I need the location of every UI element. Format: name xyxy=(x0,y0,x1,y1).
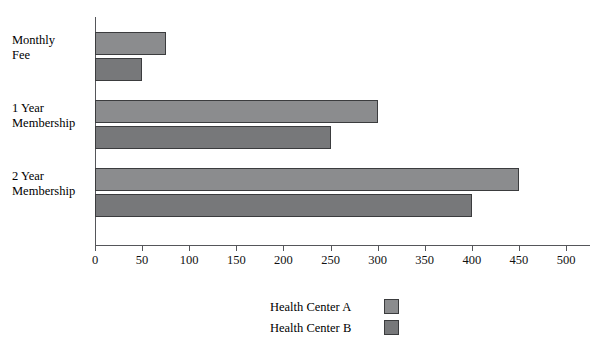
x-axis-tick xyxy=(236,245,237,251)
legend-item: Health Center B xyxy=(270,317,410,338)
legend-item: Health Center A xyxy=(270,296,410,317)
category-label-line: 1 Year xyxy=(12,101,94,116)
category-label-line: Monthly xyxy=(12,33,94,48)
x-axis-tick-label: 50 xyxy=(122,253,162,267)
category-label-line: 2 Year xyxy=(12,169,94,184)
bar xyxy=(95,194,472,217)
x-axis-tick xyxy=(425,245,426,251)
x-axis-tick xyxy=(331,245,332,251)
x-axis-tick xyxy=(378,245,379,251)
x-axis-tick-label: 100 xyxy=(169,253,209,267)
x-axis-tick-label: 200 xyxy=(263,253,303,267)
bar xyxy=(95,32,166,55)
x-axis-tick-label: 400 xyxy=(452,253,492,267)
legend-swatch-series-b xyxy=(384,320,399,335)
x-axis-tick xyxy=(142,245,143,251)
x-axis-line xyxy=(95,245,590,246)
legend-swatch-series-a xyxy=(384,299,399,314)
x-axis-tick-label: 250 xyxy=(311,253,351,267)
category-label: MonthlyFee xyxy=(12,33,94,63)
category-label-line: Membership xyxy=(12,116,94,131)
x-axis-tick-label: 0 xyxy=(75,253,115,267)
x-axis-tick-label: 150 xyxy=(216,253,256,267)
category-label: 1 YearMembership xyxy=(12,101,94,131)
bar-chart: 050100150200250300350400450500 MonthlyFe… xyxy=(0,0,608,358)
x-axis-tick xyxy=(95,245,96,251)
bar xyxy=(95,126,331,149)
legend-label-series-b: Health Center B xyxy=(270,321,378,335)
category-label-line: Fee xyxy=(12,48,94,63)
legend-label-series-a: Health Center A xyxy=(270,300,378,314)
x-axis-tick-label: 500 xyxy=(546,253,586,267)
x-axis-tick xyxy=(283,245,284,251)
bar xyxy=(95,58,142,81)
x-axis-tick xyxy=(472,245,473,251)
x-axis-tick-label: 350 xyxy=(405,253,445,267)
x-axis-tick xyxy=(566,245,567,251)
x-axis-tick-label: 300 xyxy=(358,253,398,267)
category-label: 2 YearMembership xyxy=(12,169,94,199)
category-label-line: Membership xyxy=(12,184,94,199)
bar xyxy=(95,100,378,123)
x-axis-tick-label: 450 xyxy=(499,253,539,267)
x-axis-tick xyxy=(519,245,520,251)
bar xyxy=(95,168,519,191)
chart-legend: Health Center A Health Center B xyxy=(270,296,410,338)
x-axis-tick xyxy=(189,245,190,251)
